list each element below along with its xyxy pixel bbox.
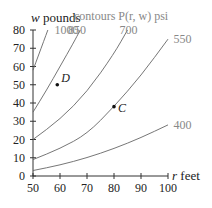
y-tick-label: 30 (13, 114, 25, 128)
point-label-D: D (60, 71, 70, 85)
contour-label-700: 700 (119, 23, 137, 37)
contour-label-400: 400 (173, 118, 191, 132)
x-tick-label: 70 (81, 181, 93, 195)
point-D (56, 83, 60, 87)
x-tick-label: 90 (135, 181, 147, 195)
contour-label-550: 550 (173, 32, 191, 46)
point-C (112, 105, 116, 109)
contour-400 (33, 125, 168, 171)
y-tick-label: 40 (13, 96, 25, 110)
y-tick-label: 20 (13, 133, 25, 147)
contour-850 (33, 30, 80, 112)
x-tick-label: 50 (27, 181, 39, 195)
y-tick-label: 80 (13, 23, 25, 37)
contour-curves: 1000850700550400 (33, 23, 191, 171)
annotation-points: DC (56, 71, 128, 115)
x-axis-label: r feet (172, 168, 200, 183)
point-label-C: C (118, 101, 127, 115)
chart-title: contours P(r, w) psi (74, 9, 169, 23)
y-tick-label: 60 (13, 60, 25, 74)
contour-label-850: 850 (68, 23, 86, 37)
x-tick-label: 60 (54, 181, 66, 195)
contour-550 (33, 39, 168, 159)
chart-svg: 506070809010001020304050607080 100085070… (0, 0, 212, 208)
x-tick-label: 80 (108, 181, 120, 195)
x-tick-label: 100 (159, 181, 177, 195)
y-tick-label: 0 (19, 169, 25, 183)
y-tick-label: 70 (13, 41, 25, 55)
contour-1000 (33, 30, 48, 70)
y-tick-label: 50 (13, 78, 25, 92)
contour-chart: 506070809010001020304050607080 100085070… (0, 0, 212, 208)
y-tick-label: 10 (13, 151, 25, 165)
contour-700 (33, 30, 128, 140)
